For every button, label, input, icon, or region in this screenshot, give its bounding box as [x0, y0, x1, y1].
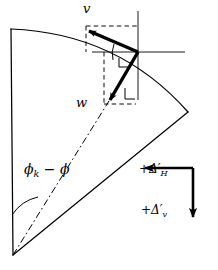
- angle-phi-k: ϕk: [24, 161, 39, 177]
- sector-right-radius: [13, 112, 188, 255]
- right-angle-tick-lower: [125, 88, 135, 99]
- vector-v: [89, 31, 138, 52]
- vectors: [89, 31, 138, 100]
- delta-h-base: +Δ′: [139, 162, 160, 176]
- sector-arc: [11, 29, 188, 112]
- label-vector-w: w: [76, 96, 87, 109]
- angle-arc: [12, 197, 38, 215]
- angle-minus-operator: −: [39, 161, 60, 177]
- vector-decomposition-figure: v w ϕk − ϕ +Δ′H +Δ′v: [0, 0, 218, 270]
- sector-left-radius: [11, 29, 13, 255]
- label-delta-vertical: +Δ′v: [141, 204, 167, 218]
- sector-outline: [11, 29, 188, 255]
- angle-phi: ϕ: [60, 161, 70, 177]
- delta-v-subscript: v: [162, 209, 167, 219]
- delta-v-base: +Δ′: [141, 203, 162, 217]
- label-angle-difference: ϕk − ϕ: [24, 162, 70, 179]
- label-vector-v: v: [83, 2, 90, 15]
- delta-h-subscript: H: [160, 168, 167, 178]
- figure-canvas: [0, 0, 218, 270]
- label-delta-horizontal: +Δ′H: [139, 163, 168, 177]
- local-axes: [92, 11, 185, 100]
